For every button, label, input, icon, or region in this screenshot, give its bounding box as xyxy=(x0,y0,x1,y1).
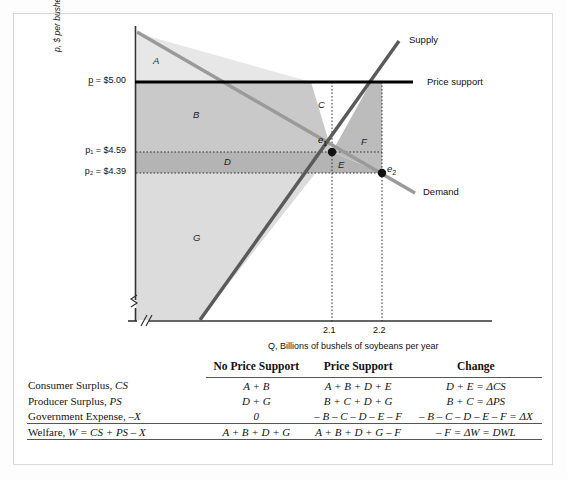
row-label-var: CS xyxy=(115,379,128,391)
cell-ps-price-support: B + C + D + G xyxy=(307,393,410,408)
table-row: Government Expense, –X 0 – B – C – D – E… xyxy=(27,408,542,424)
y-axis-title: p, $ per bushel xyxy=(52,0,62,52)
e1-subscript: 1 xyxy=(323,140,327,147)
equilibrium-point-e2 xyxy=(378,169,386,177)
cell-welfare-change: – F = ΔW = DWL xyxy=(410,424,542,440)
row-label-var: –X xyxy=(129,410,141,422)
welfare-comparison-table: No Price Support Price Support Change Co… xyxy=(27,358,542,440)
region-label-F: F xyxy=(361,136,367,147)
row-label-welfare: Welfare, W = CS + PS – X xyxy=(27,424,206,440)
figure-page: p, $ per bushel p̲ = $5.00 p₁ = $4.59 p₂… xyxy=(0,0,567,479)
equilibrium-point-e1 xyxy=(328,148,336,156)
region-D-fill xyxy=(136,152,332,173)
cell-welfare-price-support: A + B + D + G – F xyxy=(307,424,410,440)
cell-cs-price-support: A + B + D + E xyxy=(307,378,410,394)
table-header-row: No Price Support Price Support Change xyxy=(27,358,542,378)
row-label-prefix: Producer Surplus, xyxy=(28,395,110,407)
demand-curve-label: Demand xyxy=(423,186,459,197)
price-tick-support: p̲ = $5.00 xyxy=(60,75,126,85)
row-label-prefix: Welfare, xyxy=(28,426,68,438)
region-label-B: B xyxy=(193,109,199,120)
table-total-row: Welfare, W = CS + PS – X A + B + D + G A… xyxy=(27,424,542,440)
supply-demand-chart: p, $ per bushel p̲ = $5.00 p₁ = $4.59 p₂… xyxy=(0,0,567,370)
quantity-tick-2-1: 2.1 xyxy=(323,325,336,335)
x-axis-title: Q, Billions of bushels of soybeans per y… xyxy=(268,341,439,351)
cell-gov-change: – B – C – D – E – F = ΔX xyxy=(410,408,542,424)
cell-welfare-no-price-support: A + B + D + G xyxy=(206,424,307,440)
region-label-C: C xyxy=(318,99,325,110)
table-header-change: Change xyxy=(410,358,542,378)
price-support-label: Price support xyxy=(427,76,483,87)
table-header-blank xyxy=(27,358,206,378)
table-header-no-price-support: No Price Support xyxy=(206,358,307,378)
cell-ps-change: B + C = ΔPS xyxy=(410,393,542,408)
row-label-producer-surplus: Producer Surplus, PS xyxy=(27,393,206,408)
region-label-E: E xyxy=(338,159,344,170)
region-A-fill xyxy=(137,33,311,82)
cell-gov-price-support: – B – C – D – E – F xyxy=(307,408,410,424)
price-tick-p1: p₁ = $4.59 xyxy=(60,145,126,155)
table-header-price-support: Price Support xyxy=(307,358,410,378)
row-label-var: PS xyxy=(110,395,122,407)
row-label-consumer-surplus: Consumer Surplus, CS xyxy=(27,378,206,394)
cell-cs-no-price-support: A + B xyxy=(206,378,307,394)
cell-ps-no-price-support: D + G xyxy=(206,393,307,408)
row-label-prefix: Government Expense, xyxy=(28,410,129,422)
cell-gov-no-price-support: 0 xyxy=(206,408,307,424)
price-tick-p2: p₂ = $4.39 xyxy=(60,166,126,176)
row-label-var: W = CS + PS – X xyxy=(68,426,146,438)
e2-subscript: 2 xyxy=(392,169,396,176)
quantity-tick-2-2: 2.2 xyxy=(373,325,386,335)
region-label-D: D xyxy=(224,156,231,167)
region-label-G: G xyxy=(193,232,200,243)
chart-canvas xyxy=(0,0,567,370)
equilibrium-label-e2: e2 xyxy=(387,163,396,176)
region-B-fill xyxy=(136,82,332,152)
table-row: Consumer Surplus, CS A + B A + B + D + E… xyxy=(27,378,542,394)
equilibrium-label-e1: e1 xyxy=(318,134,327,147)
cell-cs-change: D + E = ΔCS xyxy=(410,378,542,394)
table-row: Producer Surplus, PS D + G B + C + D + G… xyxy=(27,393,542,408)
row-label-prefix: Consumer Surplus, xyxy=(28,379,115,391)
supply-curve-label: Supply xyxy=(409,34,438,45)
row-label-government-expense: Government Expense, –X xyxy=(27,408,206,424)
region-label-A: A xyxy=(153,55,159,66)
